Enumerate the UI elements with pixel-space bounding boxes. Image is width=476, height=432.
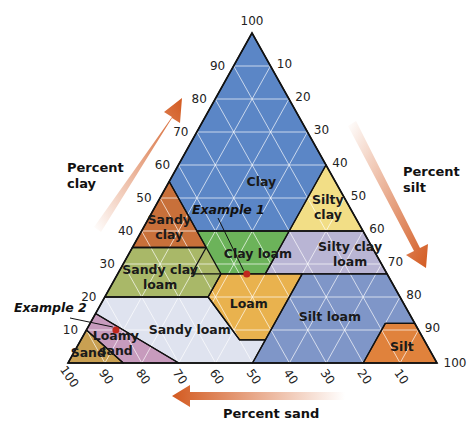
silt-tick: 20 xyxy=(295,90,310,104)
sand-tick: 20 xyxy=(354,366,374,387)
sand-tick: 70 xyxy=(170,366,190,387)
silt-tick: 50 xyxy=(351,189,366,203)
sand-axis-title: Percent sand xyxy=(223,406,319,421)
example-1-label: Example 1 xyxy=(192,202,265,217)
example-2-label: Example 2 xyxy=(14,300,87,315)
region-label-silt-loam: Silt loam xyxy=(299,309,361,324)
clay-tick: 60 xyxy=(155,158,170,172)
clay-tick: 70 xyxy=(173,125,188,139)
clay-tick: 100 xyxy=(241,14,264,28)
region-label-sandy-loam: Sandy loam xyxy=(149,322,231,337)
sand-tick: 90 xyxy=(96,366,116,387)
silt-axis-title: Percent silt xyxy=(403,164,464,195)
sand-tick: 50 xyxy=(244,366,264,387)
clay-tick: 90 xyxy=(210,59,225,73)
region-label-silty-clay: Siltyclay xyxy=(312,192,344,222)
region-label-clay: Clay xyxy=(247,174,277,189)
silt-tick: 100 xyxy=(444,356,467,370)
sand-tick: 80 xyxy=(133,366,153,387)
silt-tick: 90 xyxy=(425,321,440,335)
silt-tick: 10 xyxy=(277,57,292,71)
soil-texture-triangle: ClaySandyclaySiltyclayClay loamSilty cla… xyxy=(0,0,476,432)
region-label-clay-loam: Clay loam xyxy=(224,246,292,261)
silt-tick: 80 xyxy=(406,288,421,302)
silt-tick: 70 xyxy=(388,255,403,269)
example-1-dot xyxy=(243,270,250,277)
sand-tick: 10 xyxy=(391,366,411,387)
clay-axis-title: Percent clay xyxy=(67,160,128,191)
region-label-loam: Loam xyxy=(230,296,268,311)
clay-tick: 30 xyxy=(100,257,115,271)
sand-tick: 30 xyxy=(317,366,337,387)
sand-tick: 60 xyxy=(207,366,227,387)
silt-tick: 30 xyxy=(314,123,329,137)
clay-tick: 10 xyxy=(63,323,78,337)
sand-tick: 40 xyxy=(281,366,301,387)
silt-tick: 60 xyxy=(369,222,384,236)
sand-axis-arrow-icon xyxy=(172,385,345,407)
clay-tick: 50 xyxy=(136,191,151,205)
region-label-silt: Silt xyxy=(390,339,414,354)
region-label-sand: Sand xyxy=(71,345,106,360)
example-2-dot xyxy=(112,327,119,334)
silt-tick: 40 xyxy=(332,156,347,170)
sand-tick: 100 xyxy=(57,363,82,390)
clay-tick: 80 xyxy=(192,92,207,106)
clay-tick: 40 xyxy=(118,224,133,238)
